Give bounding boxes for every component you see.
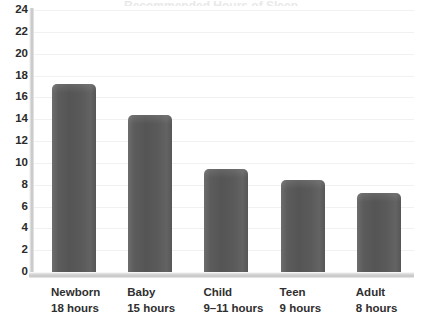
gridline: [33, 76, 414, 77]
x-label-hours: 8 hours: [356, 300, 398, 316]
x-label-category: Child: [203, 286, 232, 298]
y-tick-label: 2: [2, 244, 28, 256]
x-label-category: Teen: [280, 286, 306, 298]
bar-adult: [357, 193, 401, 272]
y-tick-label: 20: [2, 48, 28, 60]
x-label-category: Newborn: [51, 286, 100, 298]
bar-chart: Recommended Hours of Sleep 0246810121416…: [0, 0, 422, 324]
x-label-baby: Baby15 hours: [127, 284, 175, 316]
y-tick-label: 16: [2, 92, 28, 104]
x-label-teen: Teen9 hours: [280, 284, 322, 316]
chart-title-remnant: Recommended Hours of Sleep: [0, 0, 422, 6]
bar-baby: [128, 115, 172, 272]
y-tick-label: 12: [2, 135, 28, 147]
y-tick-label: 8: [2, 179, 28, 191]
y-tick-label: 22: [2, 26, 28, 38]
y-axis-tick-labels: 024681012141618202224: [0, 10, 28, 272]
x-axis-category-labels: Newborn18 hoursBaby15 hoursChild9–11 hou…: [33, 284, 414, 322]
y-tick-label: 0: [2, 266, 28, 278]
y-tick-label: 18: [2, 70, 28, 82]
x-label-hours: 9 hours: [280, 300, 322, 316]
y-tick-label: 6: [2, 201, 28, 213]
x-label-hours: 18 hours: [51, 300, 100, 316]
plot-area: [33, 10, 414, 272]
x-label-newborn: Newborn18 hours: [51, 284, 100, 316]
x-label-category: Baby: [127, 286, 155, 298]
x-label-hours: 9–11 hours: [203, 300, 263, 316]
y-tick-label: 14: [2, 113, 28, 125]
x-label-adult: Adult8 hours: [356, 284, 398, 316]
y-axis-line: [29, 8, 34, 276]
y-tick-label: 24: [2, 4, 28, 16]
bar-newborn: [52, 84, 96, 272]
gridline: [33, 10, 414, 11]
y-tick-label: 10: [2, 157, 28, 169]
x-label-hours: 15 hours: [127, 300, 175, 316]
bar-teen: [281, 180, 325, 272]
x-label-child: Child9–11 hours: [203, 284, 263, 316]
y-tick-label: 4: [2, 223, 28, 235]
gridline: [33, 54, 414, 55]
bar-child: [204, 169, 248, 272]
gridline: [33, 32, 414, 33]
x-axis-line: [29, 272, 414, 278]
x-label-category: Adult: [356, 286, 385, 298]
